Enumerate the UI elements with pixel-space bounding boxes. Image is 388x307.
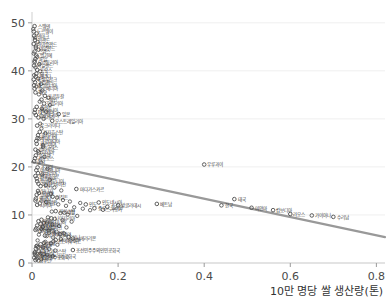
data-point[interactable] [97,201,101,205]
x-tick-label-2: 0.4 [195,270,213,283]
data-point-label: 일본 [62,111,70,117]
data-point[interactable] [233,197,237,201]
trendline [32,162,385,237]
x-tick-label-4: 0.8 [368,270,386,283]
data-point-label: 태국 [238,196,246,203]
data-point[interactable] [54,209,58,213]
data-point [88,208,91,211]
data-point-label: 조선민주주의인민공화국 [76,247,120,254]
data-point-label: 가이아나 [315,212,332,219]
data-point-label: 스리랑카 [106,206,123,213]
data-point[interactable] [71,248,75,252]
data-point-label: 체코 [39,89,47,96]
data-point-label: 우루과이 [207,161,223,168]
y-tick-label-3: 30 [11,113,25,126]
x-tick-label-1: 0.2 [109,270,127,283]
data-point[interactable] [155,202,159,206]
x-tick-label-0: 0 [29,270,36,283]
data-point-label: 라오스 [293,211,305,218]
data-point-label: 베트남 [160,201,173,208]
data-point [68,200,71,203]
data-point [79,201,82,204]
data-point-label: 마다가스카르 [80,186,104,193]
data-point [81,207,84,210]
data-point [50,210,53,213]
data-point[interactable] [35,124,39,128]
data-point[interactable] [332,215,336,219]
data-point [60,189,63,192]
data-point[interactable] [220,204,224,208]
data-point[interactable] [84,203,88,207]
plot-canvas: 0102030405000.20.40.60.810만 명당 쌀 생산량(톤)스… [0,0,388,307]
data-point-label: 코트디부아르 [57,238,81,245]
data-point-label: 캄보디아 [276,207,293,214]
data-point [65,226,68,229]
data-point-label: 몰타 [37,158,46,165]
data-point[interactable] [75,187,79,191]
data-point-label: 방글라데시 [121,202,141,209]
rice-production-scatter-chart: 0102030405000.20.40.60.810만 명당 쌀 생산량(톤)스… [0,0,388,307]
data-point-label: 미얀마 [255,205,268,212]
y-tick-label-1: 10 [11,209,25,222]
data-point-label: 수리남 [337,214,350,221]
data-point-label: 시리아 [40,202,53,209]
data-point [36,239,39,242]
data-point [64,204,67,207]
data-point[interactable] [34,91,38,95]
data-point-label: 남수단 [39,257,52,264]
data-point-label: 헝가리 [42,114,54,121]
data-point-label: 우크라이나 [40,122,61,129]
y-tick-label-0: 0 [18,257,25,270]
data-point-label: 인도 [89,201,97,207]
x-tick-label-3: 0.6 [282,270,300,283]
data-point-label: 이집트 [56,194,68,201]
data-point-label: 한국 [225,203,233,209]
x-axis-title: 10만 명당 쌀 생산량(톤) [270,285,383,298]
data-point[interactable] [271,208,275,212]
y-tick-label-2: 20 [11,161,25,174]
y-tick-label-4: 40 [11,65,25,78]
data-point[interactable] [202,163,206,167]
y-tick-label-5: 50 [11,17,25,30]
